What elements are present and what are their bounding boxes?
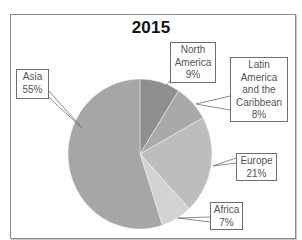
label-asia: Asia 55% (16, 69, 49, 99)
pie-slices (68, 79, 212, 229)
leader-line-latin-america-2 (196, 104, 230, 110)
label-north-america: North America 9% (170, 42, 216, 83)
leader-line-latin-america (196, 96, 230, 104)
leader-line-asia-2 (48, 90, 82, 128)
leader-line-africa (178, 217, 210, 218)
label-latin-america: Latin America and the Caribbean 8% (230, 57, 288, 122)
leader-line-asia (44, 93, 82, 128)
label-europe: Europe 21% (236, 153, 277, 181)
label-africa: Africa 7% (210, 202, 243, 230)
leader-line-africa-2 (178, 218, 210, 222)
